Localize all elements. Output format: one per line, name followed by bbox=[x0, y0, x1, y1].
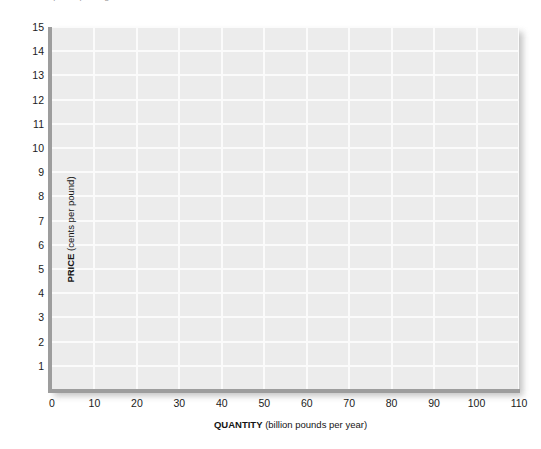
x-axis-title: QUANTITY (billion pounds per year) bbox=[0, 419, 541, 430]
x-axis-tick-label: 110 bbox=[499, 398, 539, 409]
x-axis-title-unit: (billion pounds per year) bbox=[265, 419, 367, 430]
y-axis-title-bold: PRICE bbox=[65, 254, 76, 283]
x-axis-tick-label: 50 bbox=[244, 398, 284, 409]
x-axis-tick-label: 80 bbox=[372, 398, 412, 409]
plot-frame: PRICE (cents per pound) bbox=[49, 27, 520, 393]
x-axis-tick-label: 20 bbox=[117, 398, 157, 409]
x-axis-tick-label: 40 bbox=[202, 398, 242, 409]
chart-figure: Graph for plotting the market 1234567891… bbox=[0, 0, 541, 449]
x-axis-tick-label: 30 bbox=[159, 398, 199, 409]
y-axis-title: PRICE (cents per pound) bbox=[65, 165, 76, 295]
y-axis-title-unit: (cents per pound) bbox=[65, 176, 76, 250]
x-axis-tick-label: 10 bbox=[74, 398, 114, 409]
x-axis-tick-label: 70 bbox=[329, 398, 369, 409]
x-axis-title-bold: QUANTITY bbox=[214, 419, 263, 430]
x-axis-tick-label: 0 bbox=[32, 398, 72, 409]
x-axis-tick-label: 100 bbox=[457, 398, 497, 409]
x-axis-tick-label: 90 bbox=[414, 398, 454, 409]
x-axis-tick-label: 60 bbox=[287, 398, 327, 409]
